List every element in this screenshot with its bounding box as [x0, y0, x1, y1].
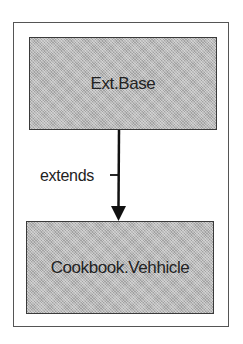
edge-label-extends: extends	[40, 167, 94, 185]
node-label: Cookbook.Vehhicle	[51, 258, 190, 278]
node-cookbook-vehicle: Cookbook.Vehhicle	[26, 221, 214, 314]
